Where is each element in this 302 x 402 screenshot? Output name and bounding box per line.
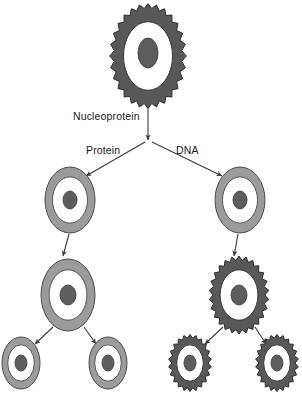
labels-layer: NucleoproteinProteinDNA bbox=[73, 110, 199, 156]
nucleoprotein-diagram: NucleoproteinProteinDNA bbox=[0, 0, 302, 402]
cell-nucleus bbox=[231, 285, 247, 305]
nucleoprotein-cell bbox=[110, 4, 187, 109]
label-nucleoprotein: Nucleoprotein bbox=[73, 110, 140, 122]
cell-nucleus bbox=[233, 191, 247, 209]
dna-cell-level3 bbox=[209, 256, 269, 334]
arrow-protein-level3-to-level4-right bbox=[84, 327, 96, 344]
protein-cell-level2 bbox=[45, 167, 95, 233]
cell-nucleus bbox=[15, 355, 27, 371]
cell-nucleus bbox=[271, 355, 283, 371]
arrow-protein-level3-to-level4-left bbox=[35, 327, 53, 344]
cell-nucleus bbox=[138, 38, 158, 68]
cell-nucleus bbox=[184, 355, 196, 371]
arrow-dna-level2-to-level3 bbox=[234, 234, 238, 256]
arrow-dna-level3-to-level4-left bbox=[205, 327, 223, 344]
dna-cell-level4-right bbox=[256, 334, 299, 391]
protein-cell-level3 bbox=[41, 259, 95, 331]
protein-cell-level4-right bbox=[89, 337, 127, 389]
label-dna: DNA bbox=[176, 144, 199, 156]
cell-nucleus bbox=[63, 191, 77, 209]
cell-nucleus bbox=[60, 285, 76, 305]
dna-cell-level4-left bbox=[169, 334, 212, 391]
label-protein: Protein bbox=[86, 144, 120, 156]
arrow-dna-level3-to-level4-right bbox=[255, 327, 266, 344]
protein-cell-level4-left bbox=[2, 337, 40, 389]
cell-nucleus bbox=[102, 355, 114, 371]
arrow-protein-level2-to-level3 bbox=[63, 234, 69, 256]
diagram-canvas: NucleoproteinProteinDNA bbox=[0, 0, 302, 402]
dna-cell-level2 bbox=[215, 167, 265, 233]
